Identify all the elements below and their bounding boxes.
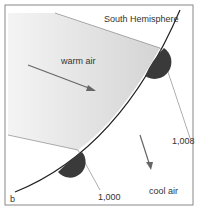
warm-air-label: warm air — [61, 56, 96, 66]
cool-air-label: cool air — [149, 186, 178, 196]
hemisphere-title: South Hemisphere — [104, 14, 179, 24]
isobar-1008-label: 1,008 — [172, 136, 195, 146]
panel-label: b — [10, 194, 15, 204]
isobar-1000-label: 1,000 — [98, 192, 121, 202]
front-diagram — [0, 0, 199, 211]
